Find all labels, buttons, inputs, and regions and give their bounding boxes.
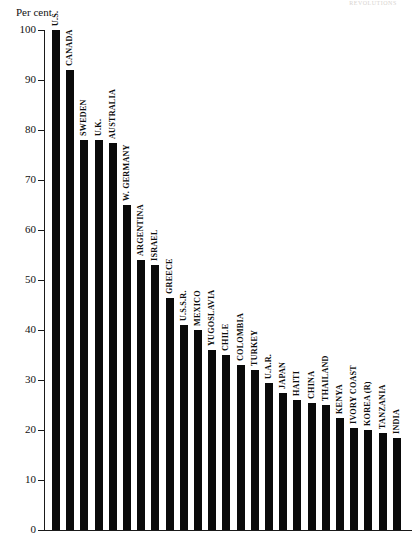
bar-label: U.K. [94, 119, 103, 136]
bar-group: AUSTRALIA [109, 143, 117, 531]
bar-group: KENYA [336, 418, 344, 531]
bar [80, 140, 88, 530]
bar-group: IVORY COAST [350, 428, 358, 531]
bar-label: CHINA [307, 370, 316, 398]
bar-group: THAILAND [322, 405, 330, 530]
bar [279, 393, 287, 531]
bar-label: W. GERMANY [122, 144, 131, 201]
bar-label: INDIA [392, 408, 401, 433]
bar-group: TANZANIA [379, 433, 387, 531]
bar [237, 365, 245, 530]
bar-group: JAPAN [279, 393, 287, 531]
bar-group: U.K. [95, 140, 103, 530]
bar-group: CHINA [308, 403, 316, 531]
bar [265, 383, 273, 531]
bar-group: ARGENTINA [137, 260, 145, 530]
bar-group: U.S. [52, 30, 60, 530]
bar [251, 370, 259, 530]
bar-label: GREECE [165, 258, 174, 294]
bar-label: COLOMBIA [236, 313, 245, 361]
bar-label: YUGOSLAVIA [207, 290, 216, 346]
bar [95, 140, 103, 530]
bar [336, 418, 344, 531]
bar-label: AUSTRALIA [108, 88, 117, 138]
bar-label: HAITI [292, 371, 301, 396]
bar [66, 70, 74, 530]
bar-group: ISRAEL [151, 265, 159, 530]
bar [52, 30, 60, 530]
bar-series: U.S.CANADASWEDENU.K.AUSTRALIAW. GERMANYA… [0, 0, 418, 549]
bar [322, 405, 330, 530]
bar-label: U.S. [51, 11, 60, 26]
bar-label: SWEDEN [79, 99, 88, 136]
bar [137, 260, 145, 530]
bar [180, 325, 188, 530]
bar-label: IVORY COAST [349, 365, 358, 424]
bar-label: JAPAN [278, 361, 287, 388]
bar-group: KOREA (R) [364, 430, 372, 530]
bar-label: ISRAEL [150, 229, 159, 261]
bar-label: TANZANIA [378, 384, 387, 429]
bar-group: CANADA [66, 70, 74, 530]
bar-group: GREECE [166, 298, 174, 531]
bar [379, 433, 387, 531]
bar-label: U.S.S.R. [179, 290, 188, 321]
bar-label: KENYA [335, 384, 344, 414]
bar-label: CANADA [65, 29, 74, 66]
bar [194, 330, 202, 530]
bar-group: W. GERMANY [123, 205, 131, 530]
bar [364, 430, 372, 530]
bar [308, 403, 316, 531]
bar [166, 298, 174, 531]
bar-label: TURKEY [250, 330, 259, 366]
bar [222, 355, 230, 530]
bar-label: U.A.R. [264, 353, 273, 378]
bar-group: COLOMBIA [237, 365, 245, 530]
bar-label: MEXICO [193, 290, 202, 326]
bar [123, 205, 131, 530]
bar-label: ARGENTINA [136, 204, 145, 256]
bar-group: SWEDEN [80, 140, 88, 530]
bar-label: THAILAND [321, 355, 330, 401]
bar-label: CHILE [221, 324, 230, 351]
bar-group: YUGOSLAVIA [208, 350, 216, 530]
bar-chart: Per cent 1009080706050403020100 U.S.CANA… [0, 0, 418, 549]
bar-label: KOREA (R) [363, 381, 372, 426]
bar [350, 428, 358, 531]
bar [208, 350, 216, 530]
bar-group: U.S.S.R. [180, 325, 188, 530]
bar [293, 400, 301, 530]
bar [393, 438, 401, 531]
bar-group: MEXICO [194, 330, 202, 530]
bar [109, 143, 117, 531]
bar-group: INDIA [393, 438, 401, 531]
bar-group: U.A.R. [265, 383, 273, 531]
bar-group: HAITI [293, 400, 301, 530]
bar-group: TURKEY [251, 370, 259, 530]
bar-group: CHILE [222, 355, 230, 530]
bar [151, 265, 159, 530]
